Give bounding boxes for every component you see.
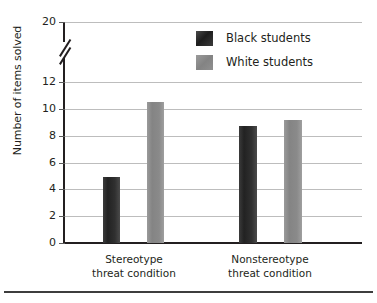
category-label-stereotype: Stereotype threat condition [74,253,194,280]
category-label-line1: Nonstereotype [210,253,330,267]
bar-white-nonstereotype [284,120,302,243]
bar-chart-figure: Number of items solved 20121086420 Black… [0,0,377,303]
y-tick-label-12: 12 [16,75,56,88]
bar-white-stereotype [147,102,164,243]
y-tick-label-0: 0 [16,236,56,249]
y-tick-label-8: 8 [16,129,56,142]
legend-item-white-students: White students [196,50,366,74]
legend-label-black-students: Black students [226,31,311,45]
y-tick-label-10: 10 [16,102,56,115]
category-label-line2: threat condition [74,267,194,281]
bottom-rule [4,291,373,293]
y-tick-label-20: 20 [16,15,56,28]
y-tick-label-6: 6 [16,156,56,169]
y-tick-label-2: 2 [16,209,56,222]
bar-black-nonstereotype [239,126,257,243]
tick-mark-0 [59,243,65,244]
chart-legend: Black students White students [196,26,366,74]
y-tick-label-4: 4 [16,182,56,195]
bar-black-stereotype [103,177,120,243]
legend-swatch-black-students [196,31,213,46]
category-label-line1: Stereotype [74,253,194,267]
legend-item-black-students: Black students [196,26,366,50]
legend-label-white-students: White students [226,55,313,69]
legend-swatch-white-students [196,55,213,70]
category-label-nonstereotype: Nonstereotype threat condition [210,253,330,280]
category-label-line2: threat condition [210,267,330,281]
